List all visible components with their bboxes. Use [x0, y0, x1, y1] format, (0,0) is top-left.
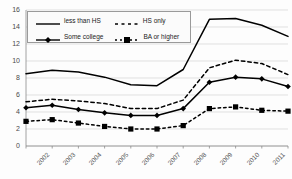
y-tick-label: 4 — [4, 108, 20, 115]
data-point-marker — [76, 120, 81, 125]
data-point-marker — [285, 109, 290, 114]
y-tick-label: 16 — [4, 6, 20, 13]
data-point-marker — [154, 126, 159, 131]
y-tick-label: 6 — [4, 91, 20, 98]
data-point-marker — [76, 107, 82, 113]
data-point-marker — [207, 106, 212, 111]
data-point-marker — [23, 105, 29, 111]
legend-swatch-less-than-hs — [35, 15, 61, 25]
data-point-marker — [181, 123, 186, 128]
y-tick-label: 8 — [4, 74, 20, 81]
chart-legend: less than HS HS only Some college — [27, 11, 191, 43]
legend-label-hs-only: HS only — [143, 17, 166, 24]
legend-swatch-hs-only — [114, 15, 140, 25]
y-tick-label: 10 — [4, 57, 20, 64]
data-point-marker — [154, 113, 160, 119]
y-tick-label: 2 — [4, 125, 20, 132]
legend-label-ba-or-higher: BA or higher — [143, 33, 179, 40]
data-point-marker — [128, 113, 134, 119]
data-point-marker — [128, 126, 133, 131]
legend-label-some-college: Some college — [64, 33, 103, 40]
y-tick-label: 0 — [4, 142, 20, 149]
data-point-marker — [233, 104, 238, 109]
data-point-marker — [233, 74, 239, 80]
data-point-marker — [49, 102, 55, 108]
legend-swatch-some-college — [35, 31, 61, 41]
y-tick-label: 14 — [4, 23, 20, 30]
y-tick-label: 12 — [4, 40, 20, 47]
data-point-marker — [259, 108, 264, 113]
series-line-hs-only — [26, 60, 288, 108]
legend-label-less-than-hs: less than HS — [64, 17, 101, 24]
data-point-marker — [23, 119, 28, 124]
line-chart: 0246810121416 20022003200420052006200720… — [0, 0, 292, 179]
data-point-marker — [285, 84, 291, 90]
data-point-marker — [102, 124, 107, 129]
data-point-marker — [50, 117, 55, 122]
series-line-some-college — [26, 77, 288, 115]
data-point-marker — [259, 76, 265, 82]
legend-swatch-ba-or-higher — [114, 31, 140, 41]
data-point-marker — [102, 110, 108, 116]
